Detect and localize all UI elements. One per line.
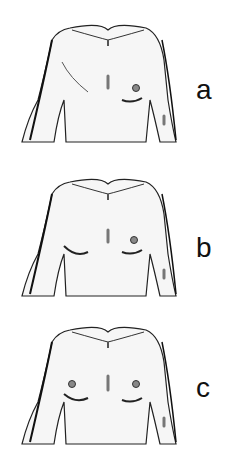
panel-label-c: c	[196, 374, 210, 402]
panel-label-a: a	[196, 76, 212, 104]
panel-a: a	[0, 0, 226, 154]
panel-b: b	[0, 154, 226, 308]
panel-c: c	[0, 308, 226, 462]
torso-illustration-c	[0, 308, 226, 462]
torso-illustration-a	[0, 0, 226, 154]
panel-label-b: b	[196, 234, 212, 262]
torso-illustration-b	[0, 154, 226, 308]
